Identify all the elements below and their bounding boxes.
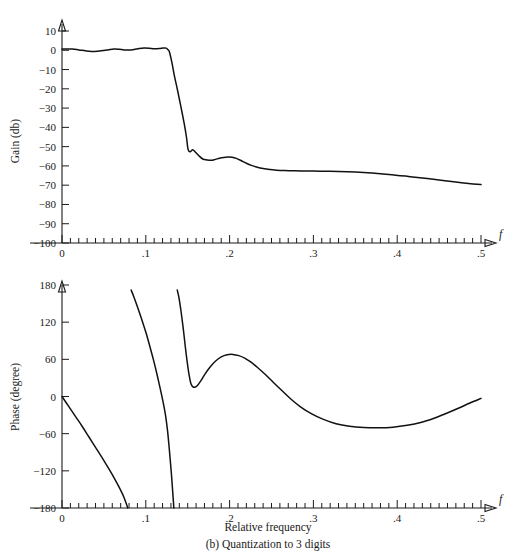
gain-x-tick-label: 0	[59, 247, 65, 259]
figure-svg: 100−10−20−30−40−50−60−70−80−90−100 0.1.2…	[0, 0, 520, 558]
phase-y-tick-label: −180	[33, 502, 56, 514]
phase-y-tick-label: 120	[40, 316, 57, 328]
gain-x-tick-labels: 0.1.2.3.4.5	[59, 247, 485, 259]
gain-x-ticks	[62, 235, 481, 243]
phase-x-axis-name: f	[499, 492, 504, 506]
gain-y-tick-label: −30	[39, 102, 57, 114]
gain-plot: 100−10−20−30−40−50−60−70−80−90−100 0.1.2…	[9, 20, 504, 259]
gain-y-axis-title: Gain (db)	[9, 119, 22, 164]
gain-y-tick-label: 10	[45, 25, 57, 37]
gain-x-tick-label: .1	[142, 247, 150, 259]
phase-y-tick-label: −60	[39, 428, 57, 440]
phase-curve-branch-3	[177, 290, 481, 428]
phase-plot: 180120600−60−120−180 0.1.2.3.4.5 f Phase…	[9, 279, 504, 524]
gain-curve	[62, 48, 481, 185]
gain-y-tick-label: −20	[39, 83, 57, 95]
phase-x-tick-label: .5	[477, 512, 486, 524]
gain-y-ticks	[62, 31, 69, 243]
gain-y-tick-label: −40	[39, 121, 57, 133]
phase-y-ticks	[62, 285, 69, 508]
phase-curves	[62, 290, 481, 508]
phase-x-tick-label: .4	[393, 512, 402, 524]
gain-x-tick-label: .3	[309, 247, 318, 259]
gain-y-tick-label: −100	[33, 237, 56, 249]
gain-y-tick-label: 0	[51, 44, 57, 56]
gain-y-tick-label: −50	[39, 141, 57, 153]
phase-x-tick-label: 0	[59, 512, 65, 524]
phase-y-tick-labels: 180120600−60−120−180	[33, 279, 56, 514]
figure-container: 100−10−20−30−40−50−60−70−80−90−100 0.1.2…	[0, 0, 520, 558]
phase-y-axis-title: Phase (degree)	[9, 363, 22, 431]
phase-y-tick-label: −120	[33, 465, 56, 477]
gain-y-tick-label: −80	[39, 198, 57, 210]
x-axis-caption: Relative frequency	[224, 521, 311, 534]
gain-x-tick-label: .5	[477, 247, 486, 259]
phase-y-tick-label: 180	[40, 279, 57, 291]
gain-y-tick-label: −90	[39, 218, 57, 230]
gain-y-tick-label: −10	[39, 64, 57, 76]
gain-y-tick-label: −60	[39, 160, 57, 172]
gain-x-tick-label: .2	[225, 247, 233, 259]
phase-y-tick-label: 60	[45, 353, 57, 365]
figure-caption: (b) Quantization to 3 digits	[206, 538, 331, 551]
phase-axes	[30, 281, 496, 512]
gain-x-axis-name: f	[499, 227, 504, 241]
gain-y-tick-label: −70	[39, 179, 57, 191]
phase-curve-branch-2	[131, 290, 174, 508]
gain-axes	[30, 20, 496, 247]
gain-y-tick-labels: 100−10−20−30−40−50−60−70−80−90−100	[33, 25, 56, 249]
gain-x-tick-label: .4	[393, 247, 402, 259]
phase-y-tick-label: 0	[51, 391, 57, 403]
phase-curve-branch-1	[62, 397, 128, 509]
phase-x-tick-label: .1	[142, 512, 150, 524]
